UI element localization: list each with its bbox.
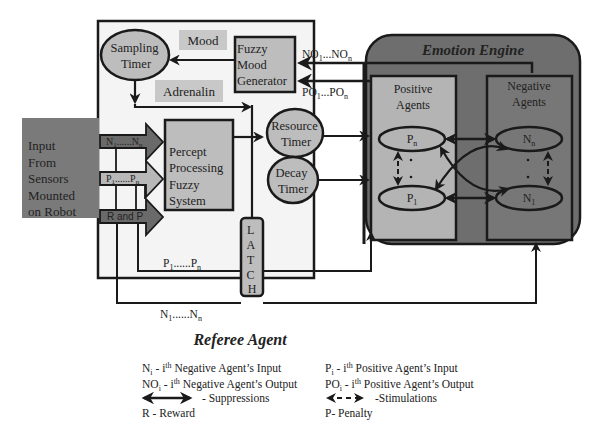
latch-label: L A T C H xyxy=(246,223,257,296)
legend-ni: Ni - ith Negative Agent’s Input xyxy=(142,361,282,377)
legend-pi: Pi - ith Positive Agent’s Input xyxy=(325,361,459,377)
emotion-engine-title: Emotion Engine xyxy=(421,42,524,58)
legend: Ni - ith Negative Agent’s Input NOi - it… xyxy=(142,361,475,420)
dot xyxy=(410,176,413,179)
resource-timer xyxy=(267,109,323,157)
r-and-p-input-label: R and P xyxy=(107,211,143,222)
n-bus-label: N1......Nn xyxy=(160,308,202,323)
positive-agents-label-1: Positive xyxy=(394,82,433,96)
dot xyxy=(527,176,530,179)
legend-reward: R - Reward xyxy=(142,407,195,419)
referee-agent-title: Referee Agent xyxy=(192,331,287,349)
legend-penalty: P- Penalty xyxy=(325,407,373,420)
legend-poi: POi - ith Positive Agent’s Output xyxy=(325,377,475,393)
negative-agents-label-1: Negative xyxy=(507,79,550,93)
legend-noi: NOi - ith Negative Agent’s Output xyxy=(142,377,298,393)
mood-label: Mood xyxy=(187,33,219,48)
positive-agents-label-2: Agents xyxy=(396,98,430,112)
legend-suppressions: - Suppressions xyxy=(202,392,270,405)
decay-timer xyxy=(268,157,318,203)
emotion-engine-diagram: Emotion Engine Positive Agents Negative … xyxy=(0,0,603,434)
dot xyxy=(410,159,413,162)
sampling-timer xyxy=(101,30,169,80)
negative-agents-label-2: Agents xyxy=(512,95,546,109)
adrenalin-label: Adrenalin xyxy=(163,84,215,99)
legend-stimulations: -Stimulations xyxy=(375,392,438,404)
dot xyxy=(527,159,530,162)
